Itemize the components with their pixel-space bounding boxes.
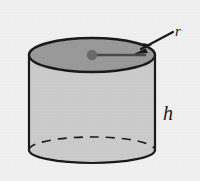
center-point-dot — [87, 50, 97, 60]
cylinder-figure: r h — [0, 0, 200, 181]
cylinder-diagram-svg: r h — [0, 0, 200, 181]
radius-label: r — [175, 23, 181, 39]
height-label: h — [163, 102, 173, 124]
